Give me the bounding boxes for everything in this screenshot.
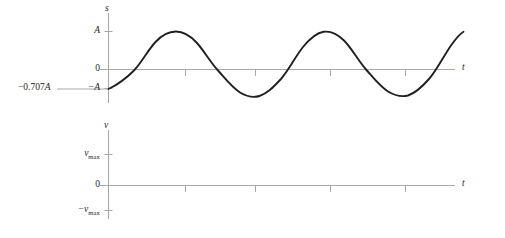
- bottom-plot-axes: [100, 130, 455, 219]
- vmax-subscript: max: [88, 153, 100, 160]
- bottom-plot-ytick-label-vmax: vmax: [72, 149, 100, 159]
- top-plot-horizontal-axis-label: t: [462, 63, 465, 73]
- annotation-numeric-value: −0.707: [18, 82, 45, 92]
- negative-vmax-subscript: max: [88, 209, 100, 216]
- annotation-symbol: A: [45, 82, 51, 92]
- bottom-plot-horizontal-axis-label: t: [462, 179, 465, 189]
- negative-vmax-symbol: −v: [78, 204, 89, 214]
- bottom-plot-ytick-label-negative-vmax: −vmax: [64, 205, 100, 215]
- bottom-plot-vertical-axis-label: v: [104, 121, 108, 131]
- top-plot-ytick-label-zero: 0: [84, 64, 100, 74]
- plot-drawing-layer: [0, 0, 505, 238]
- amplitude-fraction-annotation: −0.707A: [18, 83, 51, 93]
- bottom-plot-ytick-label-zero: 0: [84, 180, 100, 190]
- top-plot-ytick-label-negative-amplitude: −A: [78, 83, 100, 93]
- top-plot-axes: [100, 13, 455, 103]
- physics-figure-shm-graphs: s t A 0 −A −0.707A v t vmax 0 −vmax: [0, 0, 505, 238]
- position-sine-curve: [109, 32, 464, 97]
- top-plot-vertical-axis-label: s: [105, 4, 109, 14]
- top-plot-ytick-label-amplitude: A: [84, 26, 100, 36]
